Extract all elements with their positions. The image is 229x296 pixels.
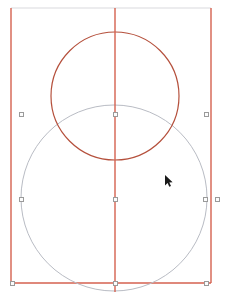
- handle-lower-left[interactable]: [19, 197, 24, 202]
- handle-bottom-right[interactable]: [204, 281, 209, 286]
- handle-mid-right[interactable]: [204, 112, 209, 117]
- handle-bottom-center[interactable]: [113, 281, 118, 286]
- handle-lower-right-inner[interactable]: [203, 197, 208, 202]
- drawing-canvas[interactable]: [0, 0, 229, 296]
- handle-bottom-left[interactable]: [10, 281, 15, 286]
- handle-lower-right-outer[interactable]: [215, 197, 220, 202]
- handle-mid-center[interactable]: [113, 112, 118, 117]
- handle-mid-left[interactable]: [19, 112, 24, 117]
- handle-lower-center[interactable]: [113, 197, 118, 202]
- selection-handle-layer: [0, 0, 229, 296]
